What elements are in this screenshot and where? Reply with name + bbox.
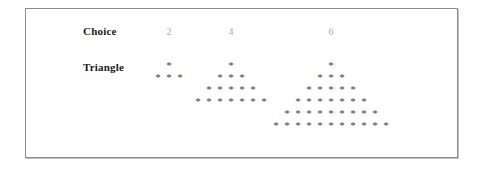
star-glyph: * bbox=[204, 83, 215, 95]
star-row: * bbox=[231, 59, 431, 71]
column-header-choice-1: 2 bbox=[157, 26, 181, 37]
star-glyph: * bbox=[337, 71, 348, 83]
output-panel: Choice Triangle 2 4 6 **** *************… bbox=[25, 8, 458, 158]
star-glyph: * bbox=[315, 83, 326, 95]
star-glyph: * bbox=[304, 83, 315, 95]
star-glyph: * bbox=[193, 95, 204, 107]
star-glyph: * bbox=[215, 71, 226, 83]
star-row: ***** bbox=[231, 83, 431, 95]
column-header-choice-3: 6 bbox=[319, 26, 343, 37]
star-glyph: * bbox=[326, 83, 337, 95]
star-glyph: * bbox=[215, 83, 226, 95]
star-glyph: * bbox=[326, 95, 337, 107]
star-row: *********** bbox=[231, 119, 431, 131]
star-glyph: * bbox=[315, 71, 326, 83]
star-row: ******* bbox=[231, 95, 431, 107]
star-glyph: * bbox=[348, 83, 359, 95]
star-glyph: * bbox=[326, 71, 337, 83]
star-glyph: * bbox=[326, 119, 337, 131]
column-header-choice-2: 4 bbox=[219, 26, 243, 37]
star-glyph: * bbox=[293, 95, 304, 107]
star-glyph: * bbox=[204, 95, 215, 107]
star-glyph: * bbox=[293, 107, 304, 119]
star-glyph: * bbox=[359, 107, 370, 119]
star-glyph: * bbox=[337, 107, 348, 119]
star-glyph: * bbox=[304, 107, 315, 119]
star-glyph: * bbox=[348, 119, 359, 131]
star-glyph: * bbox=[381, 119, 392, 131]
star-glyph: * bbox=[282, 107, 293, 119]
screenshot-canvas: Choice Triangle 2 4 6 **** *************… bbox=[0, 0, 480, 169]
star-row: ********* bbox=[231, 107, 431, 119]
star-glyph: * bbox=[271, 119, 282, 131]
star-glyph: * bbox=[282, 119, 293, 131]
star-glyph: * bbox=[348, 95, 359, 107]
star-glyph: * bbox=[315, 95, 326, 107]
star-glyph: * bbox=[337, 95, 348, 107]
star-glyph: * bbox=[304, 119, 315, 131]
star-glyph: * bbox=[348, 107, 359, 119]
row-label-choice: Choice bbox=[83, 25, 117, 37]
star-glyph: * bbox=[359, 119, 370, 131]
star-glyph: * bbox=[337, 83, 348, 95]
star-glyph: * bbox=[315, 119, 326, 131]
star-glyph: * bbox=[293, 119, 304, 131]
star-glyph: * bbox=[326, 107, 337, 119]
star-glyph: * bbox=[304, 95, 315, 107]
star-glyph: * bbox=[359, 95, 370, 107]
star-glyph: * bbox=[326, 59, 337, 71]
star-glyph: * bbox=[370, 119, 381, 131]
star-glyph: * bbox=[215, 95, 226, 107]
star-row: *** bbox=[231, 71, 431, 83]
star-glyph: * bbox=[315, 107, 326, 119]
star-glyph: * bbox=[370, 107, 381, 119]
star-glyph: * bbox=[337, 119, 348, 131]
